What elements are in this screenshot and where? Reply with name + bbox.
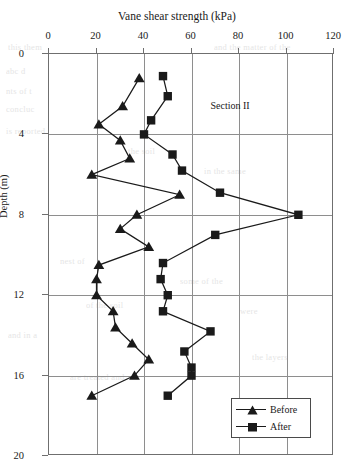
square-icon [247, 422, 258, 432]
triangle-icon [247, 405, 258, 415]
data-point-triangle [110, 322, 121, 331]
data-point-square [168, 150, 176, 158]
x-tick-mark [191, 48, 192, 54]
x-tick-mark [286, 48, 287, 54]
y-tick-label: 0 [19, 48, 24, 59]
legend-item-after: After [236, 418, 291, 435]
plot-area: Section II [48, 53, 333, 455]
data-point-triangle [117, 101, 128, 110]
legend-label-before: Before [270, 404, 297, 415]
data-point-triangle [86, 391, 97, 400]
data-series-layer [49, 54, 334, 456]
data-point-triangle [115, 135, 126, 144]
data-point-square [159, 259, 167, 267]
data-point-square [164, 291, 172, 299]
x-tick-label: 20 [90, 30, 101, 41]
y-tick-mark [42, 294, 48, 295]
x-tick-mark [48, 48, 49, 54]
bleed-text: concluc [6, 104, 35, 114]
y-tick-mark [42, 214, 48, 215]
section-annotation: Section II [211, 100, 250, 111]
data-point-square [156, 275, 164, 283]
data-point-square [294, 211, 302, 219]
legend-box: Before After [231, 398, 311, 438]
data-point-square [140, 130, 148, 138]
y-tick-label: 20 [14, 450, 25, 461]
data-point-square [164, 392, 172, 400]
y-axis-label: Depth (m) [0, 175, 9, 218]
data-point-square [159, 307, 167, 315]
x-tick-label: 0 [45, 30, 50, 41]
bleed-text: abc d [6, 66, 26, 76]
series-line [92, 78, 180, 396]
chart-page: this themand the matter of theabc dnts o… [0, 0, 354, 472]
bleed-text: this them [8, 42, 42, 52]
data-point-square [147, 116, 155, 124]
data-point-square [206, 327, 214, 335]
legend-line-after [236, 421, 266, 433]
y-tick-label: 12 [14, 289, 25, 300]
x-tick-mark [238, 48, 239, 54]
y-tick-mark [42, 375, 48, 376]
data-point-square [178, 166, 186, 174]
data-point-triangle [91, 274, 102, 283]
legend-line-before [236, 404, 266, 416]
y-tick-label: 8 [19, 208, 24, 219]
y-tick-label: 16 [14, 369, 25, 380]
x-tick-label: 40 [138, 30, 149, 41]
x-tick-label: 80 [233, 30, 244, 41]
series-line [144, 76, 298, 396]
data-point-triangle [134, 73, 145, 82]
bleed-text: is reported [6, 126, 45, 136]
legend-item-before: Before [236, 401, 297, 418]
data-point-triangle [124, 153, 135, 162]
data-point-square [216, 188, 224, 196]
data-point-square [187, 371, 195, 379]
x-tick-label: 100 [278, 30, 294, 41]
x-tick-mark [143, 48, 144, 54]
y-tick-mark [42, 133, 48, 134]
y-tick-label: 4 [19, 128, 24, 139]
bleed-text: and in a [8, 330, 37, 340]
x-tick-mark [96, 48, 97, 54]
y-tick-mark [42, 455, 48, 456]
bleed-text: and the matter of the [214, 42, 291, 52]
chart-title: Vane shear strength (kPa) [0, 10, 354, 22]
data-point-triangle [93, 260, 104, 269]
y-tick-mark [42, 53, 48, 54]
bleed-text: nts of t [6, 86, 32, 96]
data-point-triangle [91, 290, 102, 299]
data-point-square [180, 347, 188, 355]
series-before [86, 73, 185, 400]
x-tick-label: 60 [185, 30, 196, 41]
x-tick-label: 120 [325, 30, 341, 41]
data-point-triangle [143, 242, 154, 251]
data-point-triangle [131, 210, 142, 219]
data-point-square [164, 92, 172, 100]
series-after [140, 72, 303, 400]
legend-label-after: After [270, 421, 291, 432]
data-point-square [187, 363, 195, 371]
data-point-triangle [93, 119, 104, 128]
data-point-triangle [86, 169, 97, 178]
x-tick-mark [333, 48, 334, 54]
data-point-square [159, 72, 167, 80]
data-point-square [211, 231, 219, 239]
